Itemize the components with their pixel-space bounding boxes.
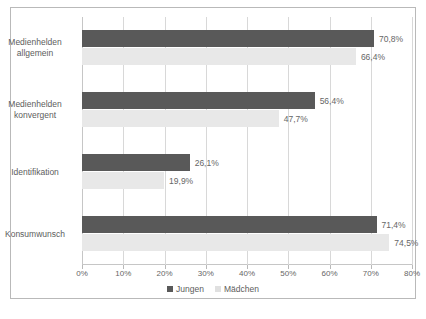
legend-label-jungen: Jungen bbox=[176, 284, 204, 294]
legend-item-maedchen: Mädchen bbox=[215, 284, 259, 294]
bar-value-label: 66,4% bbox=[361, 52, 385, 62]
category-group: Konsumwunsch71,4%74,5% bbox=[82, 203, 412, 265]
bar-value-label: 71,4% bbox=[382, 220, 406, 230]
bar-value-label: 47,7% bbox=[284, 114, 308, 124]
x-axis-tick-label: 40% bbox=[239, 269, 255, 278]
x-axis-tick-label: 30% bbox=[198, 269, 214, 278]
x-axis-tick-label: 70% bbox=[363, 269, 379, 278]
bar-value-label: 19,9% bbox=[169, 176, 193, 186]
category-group: Medienheldenkonvergent56,4%47,7% bbox=[82, 79, 412, 141]
category-axis-label: Konsumwunsch bbox=[0, 229, 75, 240]
bar-value-label: 26,1% bbox=[195, 158, 219, 168]
category-group: Medienheldenallgemein70,8%66,4% bbox=[82, 17, 412, 79]
category-label-line: Medienhelden bbox=[0, 37, 75, 48]
category-label-line: allgemein bbox=[0, 48, 75, 59]
bar-jungen bbox=[82, 30, 374, 47]
x-axis-tick-label: 60% bbox=[321, 269, 337, 278]
x-axis-tick-label: 50% bbox=[280, 269, 296, 278]
category-axis-label: Medienheldenallgemein bbox=[0, 37, 75, 59]
gridline bbox=[412, 17, 413, 265]
bar-maedchen bbox=[82, 110, 279, 127]
category-label-line: Identifikation bbox=[0, 167, 75, 178]
bar-jungen bbox=[82, 154, 190, 171]
chart-frame: 0%10%20%30%40%50%60%70%80%Medienheldenal… bbox=[10, 7, 416, 299]
caption-strip bbox=[0, 306, 426, 319]
category-group: Identifikation26,1%19,9% bbox=[82, 141, 412, 203]
category-axis-label: Identifikation bbox=[0, 167, 75, 178]
bar-jungen bbox=[82, 92, 315, 109]
x-axis-tick-label: 20% bbox=[156, 269, 172, 278]
bar-value-label: 74,5% bbox=[394, 238, 418, 248]
plot-area: 0%10%20%30%40%50%60%70%80%Medienheldenal… bbox=[82, 17, 412, 265]
legend-swatch-icon-jungen bbox=[167, 286, 173, 292]
legend-swatch-icon-maedchen bbox=[215, 286, 221, 292]
bar-maedchen bbox=[82, 172, 164, 189]
bar-maedchen bbox=[82, 234, 389, 251]
bar-value-label: 56,4% bbox=[320, 96, 344, 106]
x-axis-tick-label: 10% bbox=[115, 269, 131, 278]
category-axis-label: Medienheldenkonvergent bbox=[0, 99, 75, 121]
legend-item-jungen: Jungen bbox=[167, 284, 204, 294]
category-label-line: Medienhelden bbox=[0, 99, 75, 110]
bar-maedchen bbox=[82, 48, 356, 65]
x-axis-tick-label: 0% bbox=[76, 269, 88, 278]
chart-legend: Jungen Mädchen bbox=[11, 284, 415, 294]
bar-value-label: 70,8% bbox=[379, 34, 403, 44]
category-label-line: Konsumwunsch bbox=[0, 229, 75, 240]
legend-label-maedchen: Mädchen bbox=[224, 284, 259, 294]
x-axis-tick-label: 80% bbox=[404, 269, 420, 278]
category-label-line: konvergent bbox=[0, 110, 75, 121]
bar-jungen bbox=[82, 216, 377, 233]
